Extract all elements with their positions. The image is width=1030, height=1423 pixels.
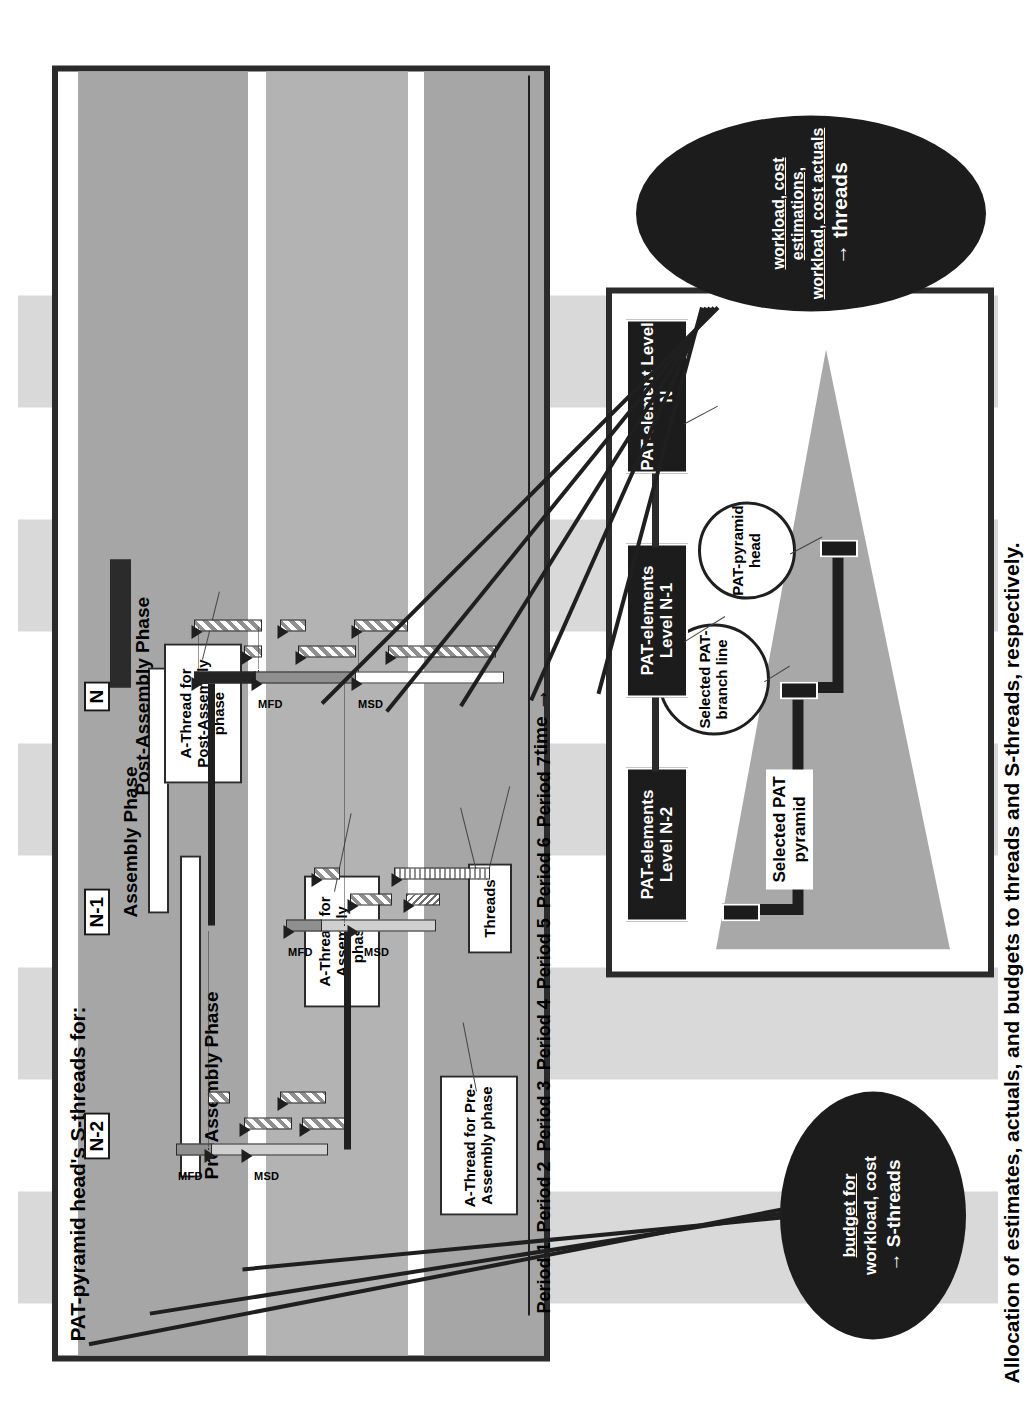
arrow-marker [284, 925, 295, 939]
dependency-link [198, 627, 199, 671]
arrow-marker [278, 625, 289, 639]
critical-path-link [344, 931, 351, 1149]
pyramid-panel: Selected PAT pyramid Selected PAT-branch… [606, 287, 994, 977]
pyramid-node-mid [780, 681, 818, 699]
dependency-link [344, 683, 345, 925]
arrow-marker [252, 677, 263, 691]
pyramid-node-top [722, 903, 760, 921]
level-tag-n: N [84, 681, 110, 711]
level-tag-n2: N-2 [84, 1112, 110, 1159]
ellipse-budget-line1: budget for [840, 1173, 859, 1257]
dependency-link [208, 931, 209, 1149]
arrow-marker [352, 625, 363, 639]
gantt-bar [194, 619, 262, 631]
level-tag-n1: N-1 [84, 888, 110, 935]
arrow-marker [404, 899, 415, 913]
ellipse-budget-s-threads: budget for workload, cost → S-threads [780, 1091, 966, 1339]
mfd-label-n: MFD [258, 697, 283, 709]
msd-label-n1: MSD [364, 945, 389, 957]
gantt-bar [244, 1117, 292, 1129]
period-label: Period 4 [534, 999, 554, 1070]
pat-elements-level-n1-label: PAT-elements Level N-1 [628, 545, 686, 695]
arrow-marker [242, 651, 253, 665]
ellipse-threads-line3: → threads [828, 162, 851, 265]
gantt-panel: PAT-pyramid head's S-threads for: N-2 N-… [52, 65, 550, 1361]
level-band-n1 [266, 71, 408, 1355]
gantt-bar [298, 645, 356, 657]
arrow-marker [312, 873, 323, 887]
gantt-bar-n2-msd [210, 1143, 328, 1155]
pat-elements-level-n2-label: PAT-elements Level N-2 [628, 769, 686, 919]
gantt-bar-n1-msd [320, 919, 436, 931]
pat-pyramid-head-node [820, 539, 858, 557]
figure-caption: Allocation of estimates, actuals, and bu… [1000, 542, 1024, 1383]
gantt-bar [394, 867, 490, 879]
figure-root: PAT-pyramid head's S-threads for: N-2 N-… [0, 0, 1030, 1423]
ellipse-threads-line2: workload, cost actuals [809, 127, 826, 299]
period-label: Period 6 [534, 837, 554, 908]
ellipse-threads: workload, cost estimations, workload, co… [636, 115, 986, 311]
arrow-marker [296, 651, 307, 665]
arrow-marker [300, 1123, 311, 1137]
msd-label-n: MSD [358, 697, 383, 709]
element-connector [652, 697, 659, 771]
mfd-label-n1: MFD [288, 945, 313, 957]
arrow-marker [192, 625, 203, 639]
arrow-marker [352, 677, 363, 691]
s-thread-bar-post-assembly [110, 559, 131, 687]
pat-elements-level-n1: PAT-elements Level N-1 [626, 543, 688, 697]
period-label: Period 5 [534, 918, 554, 989]
pat-elements-level-n2: PAT-elements Level N-2 [626, 767, 688, 921]
arrow-marker [348, 899, 359, 913]
callout-pat-pyramid-head: PAT-pyramid head [698, 501, 796, 599]
period-label: Period 7 [534, 756, 554, 827]
note-a-thread-post-assembly: A-Thread for Post-Assembly phase [164, 643, 242, 783]
period-label: Period 2 [534, 1161, 554, 1232]
ellipse-budget-line3: → S-threads [883, 1159, 904, 1271]
gantt-bar-n-mfd [194, 671, 256, 683]
arrow-marker [386, 651, 397, 665]
time-text: time [530, 716, 551, 755]
gantt-bar [388, 645, 496, 657]
msd-label-n2: MSD [254, 1169, 279, 1181]
arrow-marker [278, 1097, 289, 1111]
ellipse-threads-line1: workload, cost estimations, [770, 157, 807, 269]
dependency-link [258, 627, 259, 671]
ellipse-budget-line2: workload, cost [861, 1155, 880, 1274]
selected-pat-pyramid-label: Selected PAT pyramid [766, 769, 813, 889]
arrow-marker [240, 1123, 251, 1137]
period-axis-labels: Period 1 Period 2 Period 3 Period 4 Peri… [534, 756, 555, 1313]
note-a-thread-pre-assembly: A-Thread for Pre-Assembly phase [440, 1075, 518, 1215]
arrow-marker [205, 1149, 216, 1163]
arrow-marker [392, 873, 403, 887]
gantt-bar [208, 1091, 230, 1103]
figure-canvas: PAT-pyramid head's S-threads for: N-2 N-… [0, 0, 1030, 1423]
mfd-label-n2: MFD [178, 1169, 203, 1181]
arrow-marker [192, 677, 203, 691]
period-label: Period 3 [534, 1080, 554, 1151]
gantt-panel-title: PAT-pyramid head's S-threads for: [66, 1006, 90, 1341]
critical-path-link [208, 683, 215, 925]
arrow-marker [242, 1149, 253, 1163]
s-thread-bar-pre-assembly [180, 855, 201, 1177]
phase-label-post-assembly: Post-Assembly Phase [132, 596, 154, 795]
